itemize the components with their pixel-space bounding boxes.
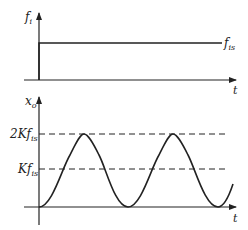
bottom-t-axis-label: t bbox=[233, 212, 238, 225]
output-oscillation-curve bbox=[39, 134, 233, 207]
step-response-diagram: fi t fis xo t 2Kfis Kfis bbox=[0, 0, 248, 230]
bottom-y-axis-label: xo bbox=[25, 94, 37, 110]
input-step-plot: fi t fis bbox=[24, 10, 238, 97]
upper-level-label: 2Kfis bbox=[9, 127, 38, 143]
output-response-plot: xo t 2Kfis Kfis bbox=[9, 94, 238, 225]
mid-level-label: Kfis bbox=[17, 162, 38, 178]
top-y-axis-label: fi bbox=[24, 10, 32, 26]
top-t-axis-label: t bbox=[233, 84, 238, 97]
step-input-line bbox=[39, 43, 222, 80]
step-level-label: fis bbox=[223, 36, 235, 52]
